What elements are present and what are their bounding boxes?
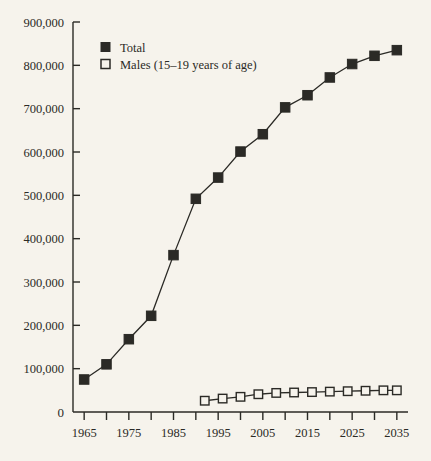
total-series-marker: [124, 334, 134, 344]
x-axis-tick-label: 2025: [340, 426, 365, 440]
y-axis-tick-label: 300,000: [23, 276, 64, 290]
y-axis-tick-label: 800,000: [23, 59, 64, 73]
y-axis-tick-label: 700,000: [23, 102, 64, 116]
males-series-marker: [343, 387, 352, 396]
males-series-marker: [361, 387, 370, 396]
x-axis-tick-label: 2005: [250, 426, 275, 440]
x-axis-tick-label: 1965: [72, 426, 97, 440]
total-series-marker: [347, 59, 357, 69]
y-axis-tick-label: 400,000: [23, 232, 64, 246]
males-series-marker: [272, 389, 281, 398]
x-axis-tick-label: 1995: [206, 426, 231, 440]
total-series-marker: [392, 45, 402, 55]
total-series-marker: [191, 194, 201, 204]
males-series-marker: [393, 386, 402, 395]
legend-males-label: Males (15–19 years of age): [120, 58, 257, 72]
total-series-marker: [280, 103, 290, 113]
x-axis-tick-label: 1975: [116, 426, 141, 440]
total-series-marker: [303, 90, 313, 100]
x-axis-tick-label: 2015: [295, 426, 320, 440]
males-series-marker: [290, 388, 299, 397]
total-series-marker: [258, 129, 268, 139]
y-axis-tick-label: 600,000: [23, 146, 64, 160]
y-axis-tick-label: 0: [58, 405, 65, 420]
males-series-marker: [254, 390, 263, 399]
y-axis-tick-label: 900,000: [23, 16, 64, 30]
y-axis-tick-label: 200,000: [23, 319, 64, 333]
y-axis-tick-label: 100,000: [23, 362, 64, 376]
x-axis-tick-label: 2035: [384, 426, 409, 440]
total-series-marker: [370, 51, 380, 61]
legend-males-marker-icon: [101, 60, 110, 69]
males-series-marker: [201, 396, 210, 405]
total-series-marker: [169, 250, 179, 260]
total-series-marker: [325, 73, 335, 83]
males-series-marker: [236, 393, 245, 402]
males-series-marker: [218, 394, 227, 403]
line-chart: 0100,000200,000300,000400,000500,000600,…: [0, 0, 431, 461]
chart-container: 0100,000200,000300,000400,000500,000600,…: [0, 0, 431, 461]
legend-total-marker-icon: [101, 43, 110, 52]
males-series-marker: [326, 387, 335, 396]
total-series-marker: [146, 311, 156, 321]
y-axis-tick-label: 500,000: [23, 189, 64, 203]
total-series-marker: [236, 147, 246, 157]
total-series-marker: [213, 173, 223, 183]
total-series-marker: [102, 360, 112, 370]
males-series-marker: [379, 386, 388, 395]
males-series-marker: [308, 388, 317, 397]
total-series-marker: [79, 375, 89, 385]
x-axis-tick-label: 1985: [161, 426, 186, 440]
legend-total-label: Total: [120, 41, 146, 55]
